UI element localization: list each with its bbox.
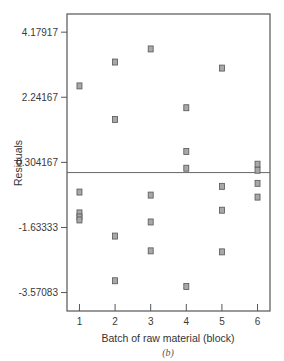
x-tick-label: 3 bbox=[148, 316, 154, 327]
data-point-square-marker bbox=[77, 83, 82, 89]
x-tick-label: 2 bbox=[112, 316, 118, 327]
x-axis-ticks: 123456 bbox=[77, 304, 261, 327]
data-points bbox=[77, 46, 260, 290]
data-point-square-marker bbox=[113, 59, 118, 65]
data-point-square-marker bbox=[113, 116, 118, 122]
data-point-square-marker bbox=[113, 278, 118, 284]
data-point-square-marker bbox=[113, 233, 118, 239]
data-point-square-marker bbox=[255, 180, 260, 186]
figure-subcaption: (b) bbox=[162, 347, 174, 359]
data-point-square-marker bbox=[219, 249, 224, 255]
residuals-scatter-chart: 4.179172.241670.304167-1.63333-3.57083 1… bbox=[0, 0, 284, 361]
x-tick-label: 6 bbox=[255, 316, 261, 327]
data-point-square-marker bbox=[148, 248, 153, 254]
data-point-square-marker bbox=[148, 192, 153, 198]
y-tick-label: 4.17917 bbox=[22, 27, 59, 38]
plot-border bbox=[67, 14, 270, 311]
data-point-square-marker bbox=[255, 194, 260, 200]
x-tick-label: 4 bbox=[184, 316, 190, 327]
data-point-square-marker bbox=[219, 65, 224, 71]
data-point-square-marker bbox=[219, 183, 224, 189]
y-axis-title: Residuals bbox=[12, 140, 24, 186]
data-point-square-marker bbox=[255, 167, 260, 173]
y-tick-label: -3.57083 bbox=[19, 287, 59, 298]
plot-frame bbox=[67, 14, 270, 311]
x-tick-label: 1 bbox=[77, 316, 83, 327]
data-point-square-marker bbox=[77, 217, 82, 223]
data-point-square-marker bbox=[255, 161, 260, 167]
data-point-square-marker bbox=[148, 219, 153, 225]
data-point-square-marker bbox=[77, 189, 82, 195]
data-point-square-marker bbox=[184, 148, 189, 154]
data-point-square-marker bbox=[148, 46, 153, 52]
data-point-square-marker bbox=[219, 207, 224, 213]
x-axis-title: Batch of raw material (block) bbox=[101, 332, 234, 344]
data-point-square-marker bbox=[184, 105, 189, 111]
x-tick-label: 5 bbox=[219, 316, 225, 327]
data-point-square-marker bbox=[184, 283, 189, 289]
y-tick-label: -1.63333 bbox=[19, 222, 59, 233]
y-tick-label: 2.24167 bbox=[22, 92, 59, 103]
data-point-square-marker bbox=[184, 165, 189, 171]
